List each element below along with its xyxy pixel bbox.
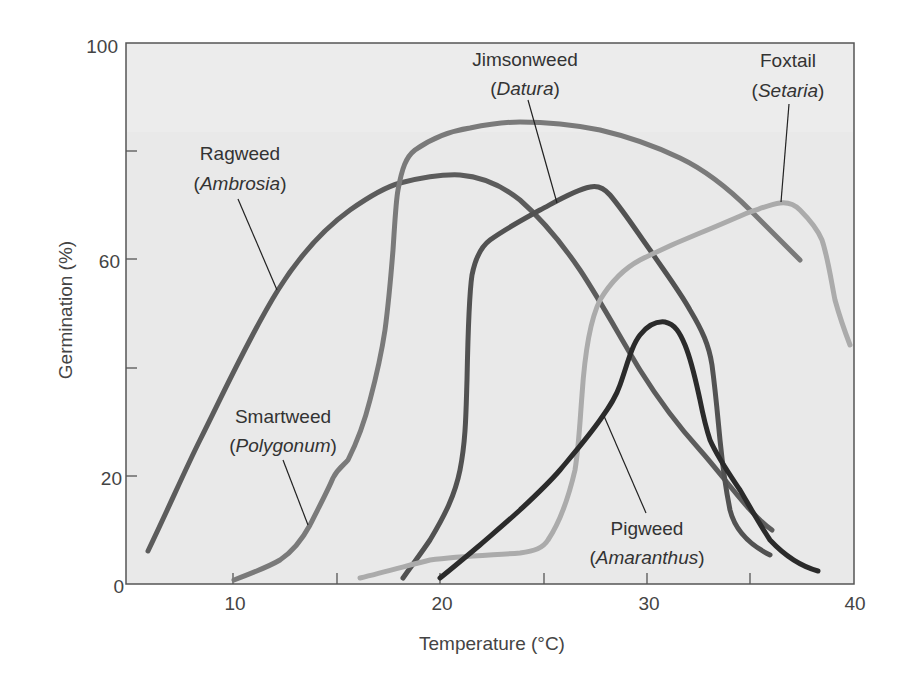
label-foxtail-genus-line: (Setaria)	[752, 80, 825, 101]
label-ragweed-genus-line: (Ambrosia)	[194, 173, 287, 194]
x-tick-10: 10	[224, 593, 245, 614]
y-axis-title: Germination (%)	[55, 241, 76, 379]
y-tick-60: 60	[99, 251, 120, 272]
x-axis-title: Temperature (°C)	[419, 633, 565, 654]
label-foxtail-common: Foxtail	[760, 50, 816, 71]
label-smartweed-common: Smartweed	[235, 406, 331, 427]
label-pigweed-common: Pigweed	[611, 518, 684, 539]
label-jimsonweed-common: Jimsonweed	[472, 49, 578, 70]
x-tick-30: 30	[638, 593, 659, 614]
label-jimsonweed-genus-line: (Datura)	[490, 78, 560, 99]
x-tick-20: 20	[431, 593, 452, 614]
label-ragweed-common: Ragweed	[200, 143, 280, 164]
germination-chart: 100 60 20 0 10 20 30 40 Temperature (°C)…	[0, 0, 902, 687]
y-tick-20: 20	[101, 468, 122, 489]
label-smartweed-genus-line: (Polygonum)	[229, 435, 337, 456]
y-tick-0: 0	[113, 576, 124, 597]
label-pigweed-genus-line: (Amaranthus)	[589, 547, 704, 568]
x-tick-40: 40	[844, 593, 865, 614]
y-tick-100: 100	[86, 36, 118, 57]
